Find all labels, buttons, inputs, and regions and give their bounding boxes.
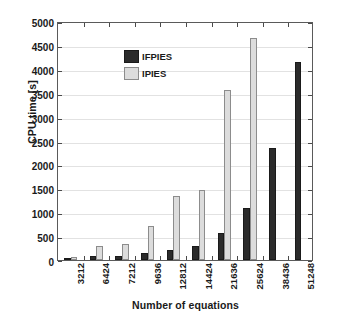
x-tick-label: 3212 <box>75 263 86 284</box>
legend-label-ifpies: IFPIES <box>142 51 172 62</box>
bar-ifpies-38436 <box>269 148 276 260</box>
legend-label-ipies: IPIES <box>142 68 166 79</box>
y-tick-label: 3000 <box>32 113 54 124</box>
y-tick-label: 5000 <box>32 18 54 29</box>
bar-ifpies-21636 <box>218 233 225 260</box>
bars-layer <box>58 23 312 260</box>
y-tick-mark <box>308 261 312 262</box>
x-tick-label: 25624 <box>254 263 265 289</box>
x-tick-label: 38436 <box>280 263 291 289</box>
x-tick-label: 6424 <box>100 263 111 284</box>
y-tick-mark <box>58 261 62 262</box>
bar-ipies-21636 <box>224 90 231 260</box>
legend-item-ifpies: IFPIES <box>124 50 172 63</box>
bar-ipies-7212 <box>122 244 129 260</box>
x-tick-label: 51248 <box>305 263 316 289</box>
plot-area: 0500100015002000250030003500400045005000… <box>57 22 313 261</box>
bar-ipies-25624 <box>250 38 257 261</box>
y-tick-label: 1500 <box>32 185 54 196</box>
bar-ifpies-51248 <box>295 62 302 260</box>
y-tick-label: 0 <box>48 257 54 268</box>
x-tick-label: 12812 <box>177 263 188 289</box>
bar-ipies-6424 <box>96 246 103 260</box>
y-tick-label: 500 <box>37 233 54 244</box>
bar-ipies-3212 <box>71 257 78 260</box>
x-tick-label: 14424 <box>203 263 214 289</box>
x-axis-label: Number of equations <box>57 299 314 311</box>
y-tick-label: 4500 <box>32 41 54 52</box>
x-tick-label: 7212 <box>126 263 137 284</box>
y-tick-label: 2500 <box>32 137 54 148</box>
y-tick-label: 1000 <box>32 209 54 220</box>
y-tick-label: 3500 <box>32 89 54 100</box>
bar-ifpies-25624 <box>243 208 250 260</box>
bar-ifpies-9636 <box>141 253 148 260</box>
bar-ifpies-14424 <box>192 246 199 260</box>
bar-ipies-12812 <box>173 196 180 260</box>
x-tick-label: 9636 <box>152 263 163 284</box>
bar-ifpies-7212 <box>115 256 122 260</box>
legend-item-ipies: IPIES <box>124 67 172 80</box>
bar-chart-figure: CPU time [s] Number of equations 0500100… <box>0 0 341 320</box>
y-tick-label: 4000 <box>32 65 54 76</box>
bar-ifpies-12812 <box>167 250 174 260</box>
bar-ipies-9636 <box>148 226 155 260</box>
legend-swatch-ifpies <box>124 50 139 63</box>
bar-ifpies-6424 <box>90 256 97 260</box>
bar-ipies-14424 <box>199 190 206 260</box>
legend-swatch-ipies <box>124 67 139 80</box>
bar-ifpies-3212 <box>64 258 71 260</box>
chart-legend: IFPIES IPIES <box>124 50 172 80</box>
x-tick-label: 21636 <box>228 263 239 289</box>
y-tick-label: 2000 <box>32 161 54 172</box>
